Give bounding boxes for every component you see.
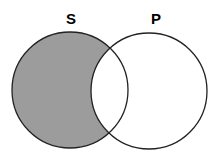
s-only-shaded-region (0, 0, 216, 159)
venn-diagram: S P (0, 0, 216, 159)
label-s: S (66, 10, 76, 27)
label-p: P (151, 10, 161, 27)
